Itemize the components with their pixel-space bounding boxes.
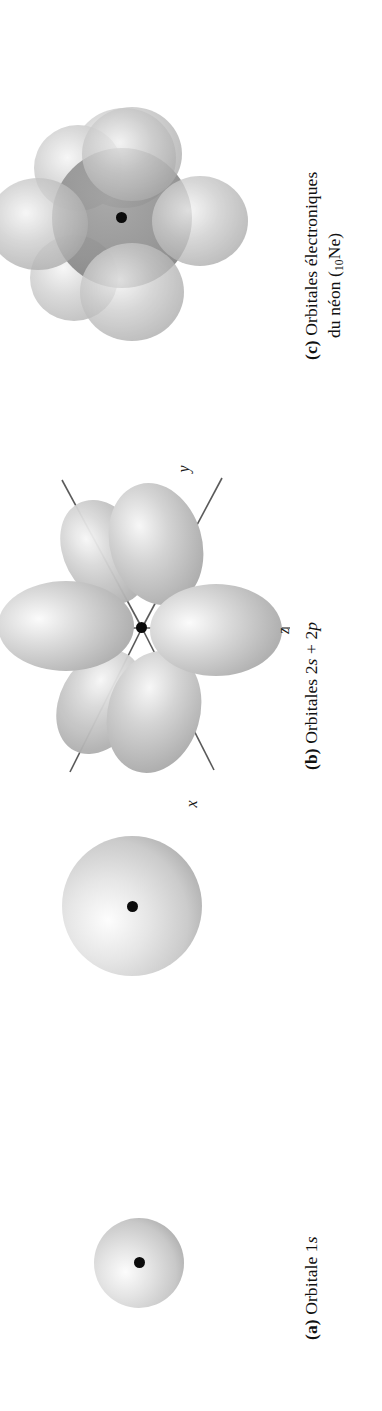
panel-c-neon-orbitals: (c) Orbitales électroniques du néon (10N… bbox=[0, 0, 382, 430]
panel-c-caption: (c) Orbitales électroniques du néon (10N… bbox=[300, 60, 347, 360]
axis-label-x: x bbox=[183, 800, 201, 807]
lobe-right bbox=[150, 584, 282, 676]
nucleus-dot bbox=[134, 1257, 145, 1268]
2s-sphere-art bbox=[60, 836, 206, 982]
lobe-left bbox=[0, 581, 134, 671]
panel-c-caption-prefix: du néon ( bbox=[324, 271, 344, 338]
panel-c-caption-text1: Orbitales électroniques bbox=[301, 172, 321, 336]
panel-c-caption-line1: (c) Orbitales électroniques bbox=[300, 60, 323, 360]
orbitals-figure: (c) Orbitales électroniques du néon (10N… bbox=[0, 0, 382, 1411]
panel-c-tag: (c) bbox=[301, 340, 321, 360]
neon-orbitals-art bbox=[4, 96, 244, 341]
panel-b-caption-prefix: Orbitales 2 bbox=[301, 665, 321, 743]
panel-c-caption-suffix: Ne) bbox=[324, 233, 344, 260]
nucleus-dot bbox=[116, 212, 127, 223]
panel-b-2s-2p-orbitals: y z x (b) Orbitales 2s + 2p bbox=[0, 430, 382, 1000]
panel-a-caption: (a) Orbitale 1s bbox=[300, 1236, 323, 1340]
panel-b-orbital-type-s: s bbox=[301, 659, 321, 666]
panel-b-orbital-type-p: p bbox=[301, 622, 321, 631]
panel-a-tag: (a) bbox=[301, 1319, 321, 1340]
nucleus-dot bbox=[127, 901, 138, 912]
axis-label-z: z bbox=[275, 628, 293, 634]
panel-a-caption-prefix: Orbitale 1 bbox=[301, 1243, 321, 1314]
axis-label-y: y bbox=[175, 465, 193, 472]
2p-orbital-svg bbox=[4, 440, 294, 830]
neon-lobe-top-front bbox=[82, 107, 182, 201]
1s-sphere-art bbox=[94, 1218, 188, 1312]
panel-a-1s-orbital: (a) Orbitale 1s bbox=[0, 1000, 382, 1411]
panel-b-caption: (b) Orbitales 2s + 2p bbox=[300, 622, 323, 770]
2p-orbital-art: y z x bbox=[4, 440, 294, 830]
neon-lobe-bottom-front bbox=[80, 243, 184, 341]
panel-b-tag: (b) bbox=[301, 748, 321, 770]
panel-c-caption-line2: du néon (10Ne) bbox=[323, 60, 347, 360]
panel-b-caption-mid: + 2 bbox=[301, 631, 321, 659]
neon-atomic-number: 10 bbox=[333, 259, 345, 271]
nucleus-dot bbox=[136, 622, 147, 633]
neon-lobe-right bbox=[152, 176, 248, 266]
panel-a-orbital-type-s: s bbox=[301, 1236, 321, 1243]
